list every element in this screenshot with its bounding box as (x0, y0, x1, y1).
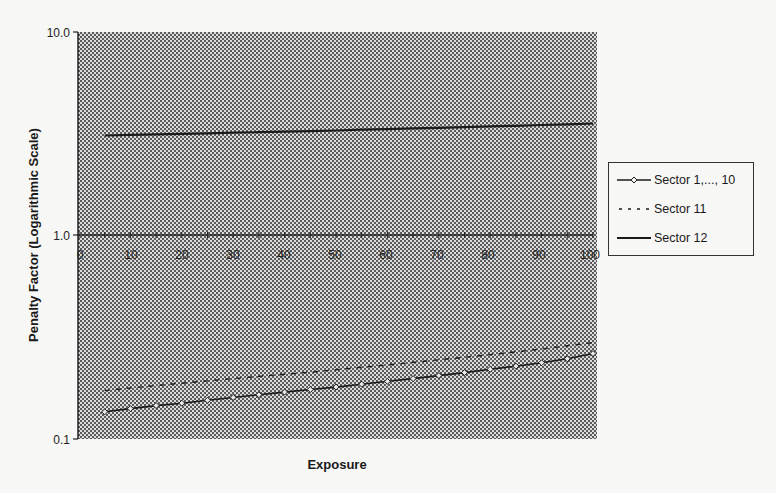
x-axis-ticks (79, 232, 593, 238)
legend-swatch-dashed-line-icon (617, 203, 651, 215)
x-tick-label: 10 (124, 248, 138, 262)
legend-label: Sector 1,..., 10 (654, 173, 735, 187)
legend: Sector 1,..., 10 Sector 11 Sector 12 (608, 162, 754, 256)
x-tick-label: 0 (77, 248, 84, 262)
y-tick-label-0-1: 0.1 (53, 433, 70, 447)
x-tick-label: 20 (175, 248, 189, 262)
x-tick-label: 50 (328, 248, 342, 262)
x-tick-label: 30 (226, 248, 240, 262)
y-tick-label-10: 10.0 (47, 26, 71, 40)
x-tick-label: 90 (532, 248, 546, 262)
x-axis-title: Exposure (307, 457, 366, 472)
x-tick-label: 70 (430, 248, 444, 262)
y-axis-title: Penalty Factor (Logarithmic Scale) (26, 128, 41, 342)
x-tick-label: 100 (580, 248, 600, 262)
legend-item-sector-12: Sector 12 (617, 230, 708, 246)
legend-label: Sector 11 (654, 202, 707, 216)
x-tick-label: 80 (481, 248, 495, 262)
y-tick-label-1: 1.0 (53, 229, 70, 243)
x-tick-label: 40 (277, 248, 291, 262)
legend-item-sector-11: Sector 11 (617, 201, 707, 217)
legend-label: Sector 12 (654, 231, 708, 245)
legend-swatch-line-with-markers-icon (617, 174, 651, 186)
legend-item-sector-1-10: Sector 1,..., 10 (617, 172, 735, 188)
legend-swatch-solid-line-icon (617, 232, 651, 244)
x-tick-label: 60 (379, 248, 393, 262)
